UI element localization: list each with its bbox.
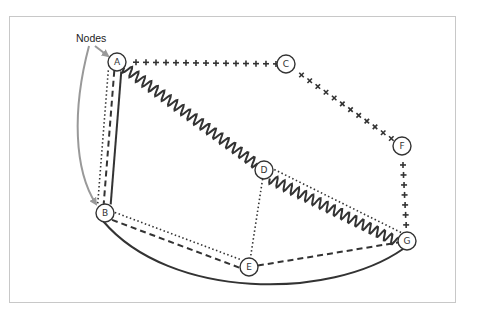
edge-d-g-wavy — [269, 177, 399, 244]
graph-canvas: Nodes ABCDEFG — [0, 0, 478, 319]
node-label: C — [283, 59, 289, 69]
edge-d-g-dotted — [274, 170, 401, 233]
arrow-to-node-a — [95, 46, 108, 56]
node-label: E — [246, 262, 252, 272]
node-label: B — [102, 208, 108, 218]
node-label: G — [404, 236, 411, 246]
node-f[interactable]: F — [393, 137, 411, 155]
edge-a-b-dotted — [98, 70, 109, 203]
edges-layer — [98, 59, 409, 284]
edge-e-g-dashed — [258, 242, 398, 265]
node-label: D — [261, 165, 268, 175]
arrow-to-node-b — [78, 46, 96, 204]
node-g[interactable]: G — [398, 232, 416, 250]
edge-b-e-dotted — [115, 212, 242, 260]
node-label: F — [399, 141, 404, 151]
edge-a-c-plus — [133, 59, 279, 67]
node-b[interactable]: B — [96, 204, 114, 222]
edge-f-g-plus — [400, 162, 409, 228]
edge-c-f-cross — [299, 73, 393, 141]
node-c[interactable]: C — [277, 55, 295, 73]
nodes-annotation-label: Nodes — [76, 32, 106, 44]
node-d[interactable]: D — [255, 161, 273, 179]
annotation-layer: Nodes — [76, 32, 108, 204]
edge-a-d-wavy — [123, 67, 258, 167]
node-a[interactable]: A — [108, 53, 126, 71]
edge-d-e-dotted — [250, 179, 262, 258]
node-e[interactable]: E — [240, 258, 258, 276]
edge-b-e-dashed — [112, 220, 239, 268]
node-label: A — [114, 57, 121, 67]
